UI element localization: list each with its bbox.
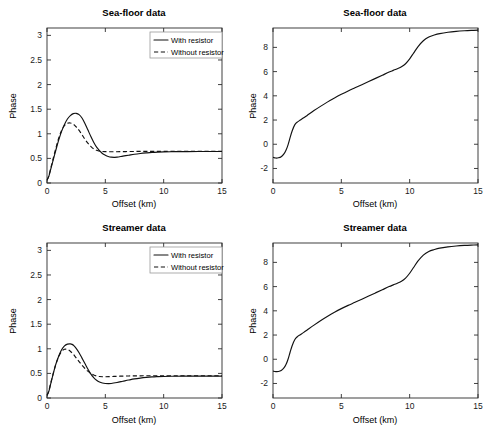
x-tick-label: 15 <box>217 401 227 411</box>
x-tick-label: 15 <box>473 401 483 411</box>
series-line-solid <box>47 113 222 180</box>
axes-box <box>273 243 478 398</box>
x-tick-label: 5 <box>103 186 108 196</box>
y-tick-label: 4 <box>263 306 268 316</box>
x-tick-label: 10 <box>159 186 169 196</box>
y-tick-label: 0 <box>263 354 268 364</box>
y-tick-label: 2 <box>263 115 268 125</box>
y-tick-label: 1 <box>37 344 42 354</box>
y-tick-label: 1.5 <box>30 319 42 329</box>
y-tick-label: 3 <box>37 30 42 40</box>
legend-label: With resistor <box>171 36 214 45</box>
x-tick-label: 0 <box>271 401 276 411</box>
subplot-title: Streamer data <box>343 222 407 233</box>
axes-box <box>273 28 478 183</box>
subplot-sea-floor-phase: Sea-floor data051015-202468Offset (km)Ph… <box>247 0 495 219</box>
y-tick-label: 2.5 <box>30 270 42 280</box>
subplot-title: Sea-floor data <box>343 7 407 18</box>
y-tick-label: 2 <box>37 295 42 305</box>
legend-label: Without resistor <box>171 48 224 57</box>
y-tick-label: -2 <box>260 378 268 388</box>
y-tick-label: 2.5 <box>30 55 42 65</box>
x-axis-label: Offset (km) <box>112 415 156 425</box>
y-axis-label: Phase <box>248 93 258 119</box>
subplot-title: Sea-floor data <box>102 7 166 18</box>
series-line-solid <box>47 344 222 395</box>
subplot-sea-floor-amplitude: Sea-floor data05101500.511.522.53Offset … <box>0 0 248 219</box>
y-tick-label: 6 <box>263 67 268 77</box>
y-tick-label: 0 <box>37 393 42 403</box>
x-tick-label: 5 <box>339 186 344 196</box>
y-axis-label: Phase <box>8 308 18 334</box>
y-tick-label: 0.5 <box>30 368 42 378</box>
subplot-title: Streamer data <box>102 222 166 233</box>
y-tick-label: 2 <box>263 330 268 340</box>
legend-label: Without resistor <box>171 263 224 272</box>
x-tick-label: 15 <box>217 186 227 196</box>
x-tick-label: 0 <box>45 401 50 411</box>
series-line-dashed <box>47 349 222 395</box>
series-line-solid <box>273 245 478 372</box>
x-axis-label: Offset (km) <box>353 415 397 425</box>
y-tick-label: 4 <box>263 91 268 101</box>
legend-label: With resistor <box>171 251 214 260</box>
x-tick-label: 10 <box>159 401 169 411</box>
y-axis-label: Phase <box>8 93 18 119</box>
y-tick-label: 1 <box>37 129 42 139</box>
y-tick-label: 8 <box>263 257 268 267</box>
figure-canvas: Sea-floor data05101500.511.522.53Offset … <box>0 0 495 437</box>
subplot-streamer-amplitude: Streamer data05101500.511.522.53Offset (… <box>0 216 248 437</box>
y-tick-label: 6 <box>263 282 268 292</box>
legend: With resistorWithout resistor <box>150 247 224 273</box>
legend: With resistorWithout resistor <box>150 32 224 58</box>
x-tick-label: 10 <box>405 186 415 196</box>
x-tick-label: 0 <box>271 186 276 196</box>
x-axis-label: Offset (km) <box>112 199 156 209</box>
x-tick-label: 5 <box>339 401 344 411</box>
y-tick-label: 3 <box>37 245 42 255</box>
x-tick-label: 0 <box>45 186 50 196</box>
y-tick-label: 0.5 <box>30 153 42 163</box>
series-line-solid <box>273 30 478 158</box>
y-tick-label: 1.5 <box>30 104 42 114</box>
subplot-streamer-phase: Streamer data051015-202468Offset (km)Pha… <box>247 216 495 437</box>
x-tick-label: 10 <box>405 401 415 411</box>
y-tick-label: -2 <box>260 163 268 173</box>
x-axis-label: Offset (km) <box>353 199 397 209</box>
x-tick-label: 15 <box>473 186 483 196</box>
y-tick-label: 0 <box>263 139 268 149</box>
x-tick-label: 5 <box>103 401 108 411</box>
y-tick-label: 0 <box>37 178 42 188</box>
y-axis-label: Phase <box>248 308 258 334</box>
y-tick-label: 2 <box>37 80 42 90</box>
y-tick-label: 8 <box>263 42 268 52</box>
